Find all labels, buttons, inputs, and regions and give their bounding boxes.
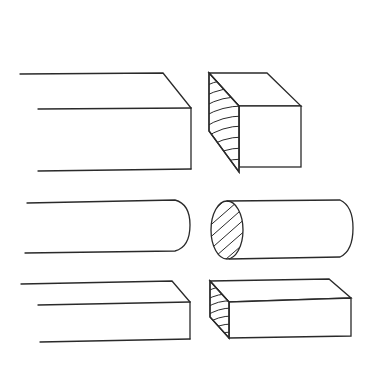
round-dowel-long-view	[25, 200, 190, 253]
diagram-svg	[0, 0, 371, 367]
flat-board-end-view	[206, 279, 351, 340]
square-timber-long-view	[20, 73, 191, 171]
round-dowel-end-view	[205, 194, 353, 268]
square-timber-end-view	[205, 73, 301, 172]
flat-board-long-view	[21, 281, 190, 342]
lumber-profiles-diagram	[0, 0, 371, 367]
